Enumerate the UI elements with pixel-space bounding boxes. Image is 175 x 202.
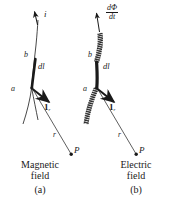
- field-name-a-line2: field: [31, 170, 49, 181]
- unit-vector-arrow-b: [98, 89, 114, 102]
- coil-lower-shade-b: [86, 88, 96, 124]
- point-a-label-b: a: [83, 85, 87, 93]
- unit-vector-subscript-a: r: [49, 107, 51, 112]
- distance-line-a: [33, 90, 71, 154]
- panel-b-graphics: [86, 13, 138, 156]
- panel-caption-b: (b): [99, 185, 173, 195]
- flux-rate-arrow-b: [97, 13, 100, 32]
- field-name-b: Electric field: [99, 160, 173, 181]
- current-label-a: i: [44, 10, 47, 19]
- field-point-dot-a: [70, 153, 73, 156]
- vertex-dot-b: [95, 86, 98, 89]
- segment-dl-b: [97, 62, 98, 88]
- field-name-a-line1: Magnetic: [21, 159, 59, 170]
- segment-dl-label-a: dl: [38, 62, 45, 71]
- unit-vector-subscript-b: r: [114, 107, 116, 112]
- field-point-label-b: P: [139, 146, 145, 155]
- point-a-label-a: a: [11, 85, 15, 93]
- field-name-b-line1: Electric: [120, 159, 151, 170]
- flux-rate-fraction-b: dΦ dt: [106, 4, 118, 22]
- flux-rate-label-b: dΦ dt: [106, 4, 118, 22]
- segment-dl-a: [32, 59, 36, 88]
- coil-upper-shade-b: [97, 33, 101, 62]
- segment-dl-label-b: dl: [103, 62, 110, 71]
- unit-vector-arrow-a: [33, 89, 49, 102]
- distance-label-a: r: [53, 131, 56, 139]
- point-b-label-a: b: [24, 51, 28, 59]
- distance-label-b: r: [118, 131, 121, 139]
- field-name-a: Magnetic field: [3, 160, 77, 181]
- field-point-dot-b: [135, 153, 138, 156]
- unit-vector-label-b: 1r: [109, 103, 115, 112]
- field-point-label-a: P: [74, 146, 80, 155]
- flux-rate-denominator-b: dt: [106, 13, 118, 21]
- field-name-b-line2: field: [127, 170, 145, 181]
- distance-line-b: [98, 90, 136, 154]
- point-b-label-b: b: [88, 51, 92, 59]
- vertex-dot-a: [30, 87, 33, 90]
- panel-a-graphics: [23, 12, 73, 156]
- wire-lower-a-1: [23, 88, 32, 124]
- current-arrow-a: [35, 12, 38, 26]
- unit-vector-label-a: 1r: [44, 103, 50, 112]
- panel-caption-a: (a): [3, 185, 77, 195]
